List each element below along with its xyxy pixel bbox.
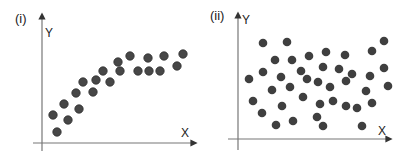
data-point — [303, 75, 312, 84]
data-point — [99, 67, 107, 75]
data-point — [368, 47, 377, 56]
data-point — [160, 52, 168, 60]
x-axis-label: X — [181, 126, 189, 140]
data-point — [173, 62, 181, 70]
data-point — [380, 64, 389, 73]
data-point — [348, 70, 357, 79]
data-point — [134, 67, 142, 75]
panel-label: (ii) — [210, 8, 224, 23]
data-point — [341, 51, 350, 60]
data-point — [72, 89, 80, 97]
data-point — [289, 117, 298, 126]
data-point — [286, 83, 295, 92]
data-point — [313, 113, 322, 122]
data-point — [179, 50, 187, 58]
x-axis-label: X — [378, 124, 386, 138]
data-point — [358, 122, 367, 131]
data-point — [319, 122, 328, 131]
data-point — [342, 102, 351, 111]
data-point — [362, 87, 371, 96]
data-point — [145, 67, 153, 75]
data-point — [319, 63, 328, 72]
data-point — [116, 67, 124, 75]
data-points — [245, 37, 393, 131]
y-axis-label: Y — [242, 13, 250, 27]
data-point — [106, 78, 114, 86]
data-point — [297, 67, 306, 76]
data-point — [89, 88, 97, 96]
data-point — [126, 52, 134, 60]
data-point — [322, 48, 331, 57]
data-point — [288, 56, 297, 65]
data-point — [258, 109, 267, 118]
data-point — [60, 100, 68, 108]
data-point — [53, 128, 61, 136]
data-point — [245, 75, 254, 84]
data-point — [49, 111, 57, 119]
data-point — [144, 54, 152, 62]
data-point — [384, 82, 393, 91]
panel-i: (i) Y X — [15, 11, 194, 151]
data-point — [277, 73, 286, 82]
data-point — [368, 99, 377, 108]
data-point — [75, 105, 83, 113]
data-point — [314, 78, 323, 87]
data-point — [335, 65, 344, 74]
data-point — [249, 97, 258, 106]
data-point — [329, 97, 338, 106]
data-point — [156, 67, 164, 75]
data-point — [114, 58, 122, 66]
scatter-figure: (i) Y X (ii) Y X — [0, 0, 410, 155]
data-point — [272, 121, 281, 130]
data-point — [268, 86, 277, 95]
data-point — [64, 116, 72, 124]
data-point — [342, 77, 351, 86]
data-point — [259, 39, 268, 48]
panel-ii: (ii) Y X — [210, 8, 392, 150]
data-point — [316, 100, 325, 109]
data-point — [353, 104, 362, 113]
data-point — [366, 72, 375, 81]
data-point — [326, 83, 335, 92]
data-points — [49, 50, 187, 136]
data-point — [283, 38, 292, 47]
y-axis-label: Y — [45, 26, 53, 40]
data-point — [92, 76, 100, 84]
data-point — [271, 56, 280, 65]
data-point — [380, 37, 389, 46]
data-point — [79, 78, 87, 86]
data-point — [299, 93, 308, 102]
panel-label: (i) — [15, 11, 27, 26]
data-point — [305, 52, 314, 61]
data-point — [278, 102, 287, 111]
data-point — [259, 68, 268, 77]
